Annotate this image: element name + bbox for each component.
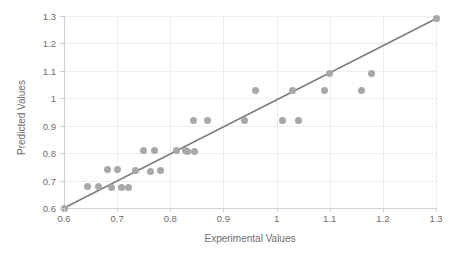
gridline-vertical	[277, 16, 278, 208]
x-axis-tick	[117, 208, 118, 212]
data-point	[321, 87, 328, 94]
data-point	[289, 87, 296, 94]
y-axis-tick	[60, 98, 64, 99]
gridline-horizontal	[64, 43, 436, 44]
data-point	[151, 147, 158, 154]
x-tick-label: 1.2	[376, 213, 389, 224]
y-axis-title: Predicted Values	[16, 43, 27, 193]
data-point	[433, 15, 440, 22]
x-tick-label: 1	[274, 213, 279, 224]
data-point	[204, 117, 211, 124]
data-point	[173, 147, 180, 154]
x-axis-tick	[223, 208, 224, 212]
y-axis-tick	[60, 181, 64, 182]
x-axis-tick	[383, 208, 384, 212]
gridline-horizontal	[64, 126, 436, 127]
data-point	[157, 167, 164, 174]
data-point	[118, 184, 125, 191]
data-point	[358, 87, 365, 94]
gridline-vertical	[223, 16, 224, 208]
x-axis-line	[64, 208, 436, 209]
y-axis-tick	[60, 71, 64, 72]
y-axis-tick	[60, 153, 64, 154]
x-axis-tick	[330, 208, 331, 212]
gridline-vertical	[117, 16, 118, 208]
data-point	[368, 70, 375, 77]
x-axis-tick	[170, 208, 171, 212]
data-point	[147, 168, 154, 175]
data-point	[190, 117, 197, 124]
data-point	[191, 148, 198, 155]
gridline-horizontal	[64, 153, 436, 154]
data-point	[84, 183, 91, 190]
y-tick-label: 0.6	[16, 203, 56, 214]
x-tick-label: 0.7	[111, 213, 124, 224]
data-point	[241, 117, 248, 124]
gridline-vertical	[383, 16, 384, 208]
y-axis-tick	[60, 43, 64, 44]
x-tick-label: 1.3	[429, 213, 442, 224]
gridline-vertical	[436, 16, 437, 208]
gridline-vertical	[170, 16, 171, 208]
gridline-horizontal	[64, 181, 436, 182]
y-axis-line	[64, 16, 65, 209]
plot-area	[64, 16, 436, 208]
y-tick-label: 1.3	[16, 11, 56, 22]
gridline-horizontal	[64, 16, 436, 17]
data-point	[95, 183, 102, 190]
x-axis-title: Experimental Values	[64, 233, 436, 244]
x-tick-label: 0.8	[164, 213, 177, 224]
gridline-horizontal	[64, 98, 436, 99]
x-tick-label: 0.9	[217, 213, 230, 224]
y-axis-tick	[60, 126, 64, 127]
gridline-vertical	[330, 16, 331, 208]
y-axis-tick	[60, 16, 64, 17]
x-axis-tick	[436, 208, 437, 212]
y-axis-tick	[60, 208, 64, 209]
data-point	[252, 87, 259, 94]
x-tick-label: 0.6	[57, 213, 70, 224]
scatter-chart-figure: 0.60.70.80.911.11.21.3 0.60.70.80.911.11…	[0, 0, 459, 260]
x-tick-label: 1.1	[323, 213, 336, 224]
x-axis-tick	[64, 208, 65, 212]
x-axis-tick	[277, 208, 278, 212]
gridline-horizontal	[64, 71, 436, 72]
